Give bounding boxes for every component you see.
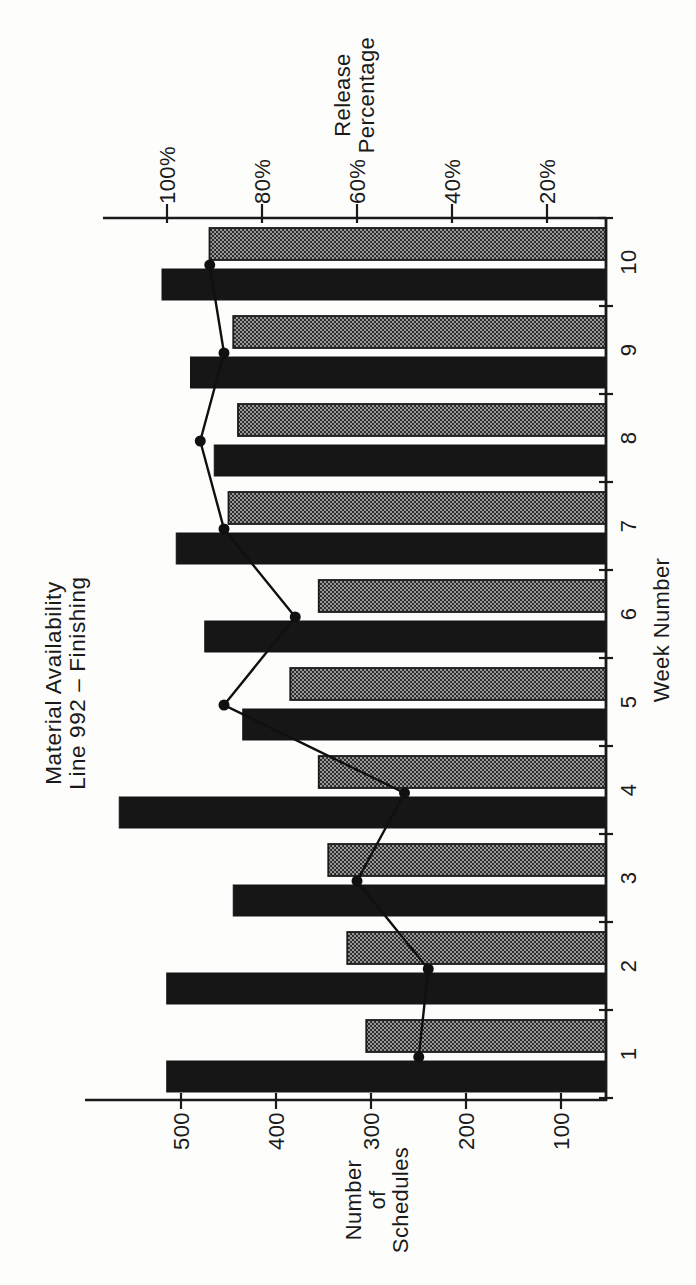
week-tick-label: 10 bbox=[616, 249, 641, 274]
left-axis-title-line: of bbox=[365, 1190, 390, 1210]
week-tick-label: 2 bbox=[616, 960, 641, 973]
bar-week3-shaded bbox=[328, 844, 606, 876]
data-point-week2 bbox=[423, 964, 434, 975]
bar-week3-dark bbox=[233, 885, 606, 916]
chart-title-line: Material Availability bbox=[41, 581, 66, 785]
bar-week9-shaded bbox=[233, 316, 606, 348]
bar-week6-shaded bbox=[319, 580, 606, 612]
bar-week2-shaded bbox=[347, 932, 606, 964]
bar-week10-shaded bbox=[210, 228, 607, 260]
week-tick-label: 8 bbox=[616, 432, 641, 445]
data-point-week3 bbox=[352, 876, 363, 887]
left-axis-tick-label: 500 bbox=[169, 1112, 194, 1150]
bar-week1-shaded bbox=[366, 1020, 606, 1052]
left-axis-tick-label: 300 bbox=[359, 1112, 384, 1150]
bar-week10-dark bbox=[162, 269, 606, 300]
bar-week9-dark bbox=[191, 357, 607, 388]
data-point-week1 bbox=[413, 1052, 424, 1063]
right-axis-tick-label: 60% bbox=[345, 159, 370, 204]
left-axis-tick-label: 400 bbox=[264, 1112, 289, 1150]
bar-week4-dark bbox=[119, 797, 606, 828]
bar-week5-shaded bbox=[290, 668, 606, 700]
right-axis-tick-label: 100% bbox=[155, 146, 180, 204]
left-axis-title-line: Schedules bbox=[388, 1147, 413, 1253]
x-axis-title: Week Number bbox=[649, 558, 674, 703]
rotated-chart-figure: 10020030040050020%40%60%80%100%123456789… bbox=[0, 0, 696, 1285]
data-point-week10 bbox=[204, 260, 215, 271]
right-axis-tick-label: 20% bbox=[535, 159, 560, 204]
data-point-week8 bbox=[195, 436, 206, 447]
data-point-week5 bbox=[219, 700, 230, 711]
left-axis-title-line: Number bbox=[341, 1160, 366, 1241]
scanned-page: 10020030040050020%40%60%80%100%123456789… bbox=[0, 0, 696, 1285]
bar-week1-dark bbox=[167, 1061, 606, 1092]
left-axis-tick-label: 200 bbox=[454, 1112, 479, 1150]
week-tick-label: 6 bbox=[616, 608, 641, 621]
data-point-week4 bbox=[399, 788, 410, 799]
right-axis-title-line: Release bbox=[330, 53, 355, 137]
week-tick-label: 5 bbox=[616, 696, 641, 709]
data-point-week7 bbox=[219, 524, 230, 535]
week-tick-label: 7 bbox=[616, 520, 641, 533]
data-point-week6 bbox=[290, 612, 301, 623]
left-axis-tick-label: 100 bbox=[549, 1112, 574, 1150]
bar-week8-shaded bbox=[238, 404, 606, 436]
right-axis-title-line: Percentage bbox=[354, 37, 379, 154]
data-point-week9 bbox=[219, 348, 230, 359]
week-tick-label: 4 bbox=[616, 784, 641, 797]
right-axis-tick-label: 40% bbox=[440, 159, 465, 204]
bar-week5-dark bbox=[243, 709, 606, 740]
bar-week2-dark bbox=[167, 973, 606, 1004]
bar-week8-dark bbox=[214, 445, 606, 476]
chart-canvas: 10020030040050020%40%60%80%100%123456789… bbox=[0, 0, 696, 1285]
week-tick-label: 9 bbox=[616, 344, 641, 357]
bar-week6-dark bbox=[205, 621, 606, 652]
week-tick-label: 1 bbox=[616, 1048, 641, 1061]
chart-title-line: Line 992 – Finishing bbox=[65, 576, 90, 789]
right-axis-tick-label: 80% bbox=[250, 159, 275, 204]
bar-week7-shaded bbox=[229, 492, 607, 524]
week-tick-label: 3 bbox=[616, 872, 641, 885]
